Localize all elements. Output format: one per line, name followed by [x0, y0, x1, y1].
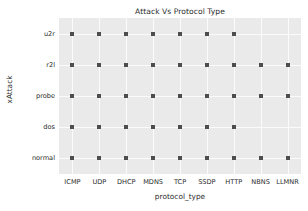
scatter-point [178, 156, 182, 160]
scatter-point [97, 156, 101, 160]
scatter-point [205, 125, 209, 129]
scatter-point [178, 32, 182, 36]
scatter-point [70, 94, 74, 98]
x-tick-label: SSDP [198, 178, 215, 186]
x-tick-label: MDNS [143, 178, 163, 186]
plot-area [59, 18, 301, 174]
x-tick-label: UDP [92, 178, 106, 186]
scatter-point [178, 63, 182, 67]
x-tick-label: NBNS [251, 178, 270, 186]
scatter-point [151, 125, 155, 129]
scatter-point [178, 125, 182, 129]
scatter-point [286, 63, 290, 67]
y-tick-label: dos [5, 123, 55, 131]
scatter-point [151, 63, 155, 67]
scatter-point [124, 63, 128, 67]
chart-title: Attack Vs Protocol Type [59, 7, 301, 16]
scatter-point [70, 32, 74, 36]
x-tick-label: HTTP [225, 178, 242, 186]
scatter-point [232, 125, 236, 129]
scatter-point [205, 156, 209, 160]
x-tick-label: ICMP [64, 178, 80, 186]
chart-figure: Attack Vs Protocol Type ICMPUDPDHCPMDNST… [0, 0, 308, 211]
x-tick-label: LLMNR [276, 178, 299, 186]
scatter-point [232, 32, 236, 36]
x-axis-title: protocol_type [59, 192, 301, 201]
scatter-point [70, 63, 74, 67]
scatter-point [151, 32, 155, 36]
scatter-point [124, 32, 128, 36]
scatter-point [286, 156, 290, 160]
scatter-point [178, 94, 182, 98]
scatter-point [232, 94, 236, 98]
y-tick-label: normal [5, 154, 55, 162]
scatter-point [97, 32, 101, 36]
scatter-point [205, 63, 209, 67]
scatter-point [124, 125, 128, 129]
x-tick-label: DHCP [117, 178, 136, 186]
y-tick-label: u2r [5, 30, 55, 38]
scatter-point [70, 156, 74, 160]
scatter-point [70, 125, 74, 129]
scatter-point [97, 63, 101, 67]
scatter-point [151, 156, 155, 160]
scatter-point [97, 125, 101, 129]
scatter-point [205, 32, 209, 36]
scatter-point [151, 94, 155, 98]
scatter-point [232, 156, 236, 160]
scatter-point [286, 94, 290, 98]
scatter-point [124, 94, 128, 98]
scatter-point [259, 94, 263, 98]
scatter-point [232, 63, 236, 67]
scatter-point [205, 94, 209, 98]
y-axis-title: xAttack [5, 60, 14, 120]
scatter-point [259, 63, 263, 67]
x-tick-label: TCP [174, 178, 186, 186]
scatter-point [97, 94, 101, 98]
scatter-point [259, 156, 263, 160]
scatter-point [124, 156, 128, 160]
